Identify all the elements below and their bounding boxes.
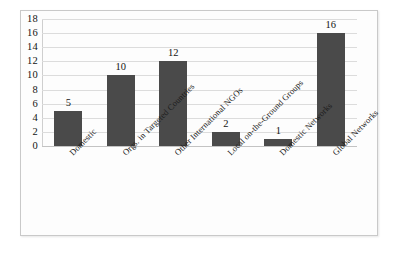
- gridline: [42, 33, 357, 34]
- gridline: [42, 104, 357, 105]
- y-axis-tick-label: 8: [16, 85, 38, 96]
- y-axis-tick-label: 12: [16, 56, 38, 67]
- y-axis-tick-label: 6: [16, 99, 38, 110]
- y-axis-tick-label: 0: [16, 141, 38, 152]
- bar[interactable]: [107, 75, 135, 146]
- chart-frame: 510122116 181614121086420 DomesticOrgs. …: [20, 10, 378, 236]
- gridline: [42, 47, 357, 48]
- bar-value-label: 16: [311, 20, 351, 31]
- gridline: [42, 19, 357, 20]
- gridline: [42, 75, 357, 76]
- y-axis-tick-label: 18: [16, 14, 38, 25]
- y-axis-tick-label: 4: [16, 113, 38, 124]
- gridline: [42, 61, 357, 62]
- gridline: [42, 90, 357, 91]
- x-axis-category-labels: DomesticOrgs. in Targeted CountriesOther…: [42, 147, 357, 235]
- y-axis-tick-label: 16: [16, 28, 38, 39]
- y-axis-tick-labels: 181614121086420: [14, 19, 38, 146]
- bar-value-label: 10: [101, 62, 141, 73]
- bar[interactable]: [317, 33, 345, 146]
- y-axis-tick-label: 10: [16, 70, 38, 81]
- y-axis-tick-label: 14: [16, 42, 38, 53]
- bar-value-label: 5: [48, 98, 88, 109]
- bar-value-label: 12: [153, 48, 193, 59]
- y-axis-tick-label: 2: [16, 127, 38, 138]
